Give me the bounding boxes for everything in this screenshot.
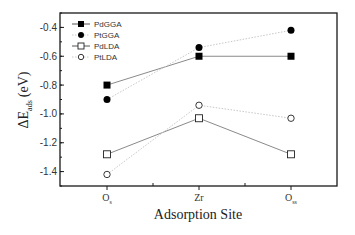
x-tick-label: Os [102, 192, 112, 205]
circle-marker [78, 32, 84, 38]
y-axis-title-unit: (eV) [16, 71, 32, 97]
y-axis-title-sub: ads [25, 100, 34, 111]
circle-marker [196, 44, 203, 51]
open-square-marker [78, 43, 84, 49]
square-marker [104, 82, 111, 89]
y-axis-title-main: ΔE [16, 111, 31, 129]
series-line-ptgga [107, 30, 291, 99]
y-tick-label: -0.8 [40, 80, 58, 91]
x-tick-label: Zr [194, 192, 204, 203]
legend-item-ptgga: PtGGA [72, 31, 120, 40]
legend-item-pdlda: PdLDA [72, 42, 120, 51]
y-axis-title: ΔEads(eV) [16, 71, 34, 128]
legend-item-ptlda: PtLDA [72, 53, 118, 62]
y-tick-label: -1.2 [40, 137, 58, 148]
open-circle-marker [196, 102, 202, 108]
x-axis-title: Adsorption Site [154, 207, 242, 222]
y-tick-label: -1.0 [40, 108, 58, 119]
open-circle-marker [288, 115, 294, 121]
open-square-marker [104, 151, 111, 158]
legend-label: PdLDA [94, 42, 120, 51]
y-tick-label: -1.4 [40, 166, 58, 177]
circle-marker [104, 96, 111, 103]
line-chart: -0.4-0.6-0.8-1.0-1.2-1.4 OsZrOss PdGGAPt… [0, 0, 355, 235]
legend-label: PdGGA [94, 20, 122, 29]
y-tick-label: -0.6 [40, 51, 58, 62]
svg-text:ΔEads(eV): ΔEads(eV) [16, 71, 34, 128]
open-square-marker [196, 115, 203, 122]
square-marker [288, 53, 295, 60]
legend-label: PtGGA [94, 31, 120, 40]
open-square-marker [288, 151, 295, 158]
legend-item-pdgga: PdGGA [72, 20, 122, 29]
legend-label: PtLDA [94, 53, 118, 62]
series-markers [104, 27, 295, 178]
y-tick-label: -0.4 [40, 22, 58, 33]
square-marker [78, 21, 84, 27]
x-tick-label: Oss [285, 192, 298, 205]
square-marker [196, 53, 203, 60]
series-line-pdlda [107, 118, 291, 154]
circle-marker [288, 27, 295, 34]
open-circle-marker [104, 171, 110, 177]
series-line-pdgga [107, 56, 291, 85]
legend: PdGGAPtGGAPdLDAPtLDA [72, 20, 122, 62]
open-circle-marker [78, 54, 83, 59]
